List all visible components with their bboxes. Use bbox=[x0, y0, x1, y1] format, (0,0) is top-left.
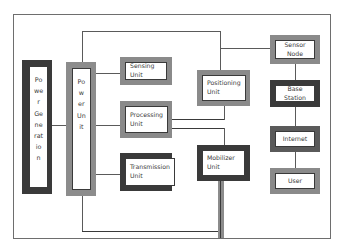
node-label: Sensor Node bbox=[280, 41, 310, 59]
node-sensing-unit: Sensing Unit bbox=[120, 57, 172, 85]
label-line: ne bbox=[35, 120, 43, 131]
label-line: we bbox=[34, 86, 43, 97]
node-label: Unit bbox=[207, 88, 220, 97]
node-processing-unit: Processing Unit bbox=[120, 101, 172, 138]
node-label: Transmission bbox=[130, 163, 170, 172]
node-label: Unit bbox=[207, 163, 220, 172]
node-power-generation: Po we r Ge ne rat io n bbox=[22, 60, 52, 194]
node-label: Mobilizer bbox=[207, 154, 235, 163]
node-user: User bbox=[270, 168, 320, 194]
node-base-station: Base Station bbox=[270, 80, 320, 107]
connector-line bbox=[52, 125, 66, 126]
label-line: Ge bbox=[34, 109, 43, 120]
node-internet: Internet bbox=[270, 126, 320, 152]
label-line: Un bbox=[77, 111, 86, 122]
connector-line bbox=[96, 73, 120, 74]
node-label: Positioning bbox=[207, 79, 241, 88]
label-line: it bbox=[79, 122, 83, 133]
connector-line bbox=[172, 128, 224, 129]
connector-line bbox=[82, 31, 83, 62]
node-mobilizer-unit: Mobilizer Unit bbox=[197, 145, 250, 181]
connector-line bbox=[82, 31, 221, 32]
label-line: r bbox=[37, 97, 40, 108]
connector-line bbox=[82, 231, 221, 232]
node-power-unit: Po w er Un it bbox=[66, 62, 96, 196]
node-label: Unit bbox=[130, 120, 143, 129]
node-positioning-unit: Positioning Unit bbox=[197, 70, 250, 106]
connector-line bbox=[295, 152, 296, 168]
label-line: io bbox=[36, 142, 42, 153]
label-line: Po bbox=[35, 75, 43, 86]
label-line: n bbox=[37, 153, 41, 164]
node-label: Unit bbox=[130, 172, 143, 181]
connector-line bbox=[295, 64, 296, 80]
node-label: User bbox=[288, 177, 302, 186]
label-line: Po bbox=[78, 77, 86, 88]
connector-line bbox=[220, 31, 221, 70]
node-label: Processing bbox=[130, 111, 163, 120]
label-line: w bbox=[79, 88, 84, 99]
node-transmission-unit: Transmission Unit bbox=[120, 153, 172, 191]
connector-line bbox=[96, 174, 120, 175]
label-line: er bbox=[78, 99, 85, 110]
connector-line bbox=[295, 107, 296, 126]
connector-line bbox=[224, 128, 225, 145]
connector-line bbox=[82, 196, 83, 231]
node-label: Internet bbox=[283, 135, 308, 144]
connector-line bbox=[96, 125, 120, 126]
label-line: rat bbox=[34, 131, 43, 142]
connector-line bbox=[172, 119, 224, 120]
node-label: Base Station bbox=[280, 85, 310, 103]
node-sensor-node: Sensor Node bbox=[270, 35, 320, 64]
mobilizer-stem bbox=[218, 181, 224, 238]
connector-line bbox=[220, 48, 270, 49]
connector-line bbox=[224, 106, 225, 120]
node-label: Sensing Unit bbox=[130, 62, 162, 80]
